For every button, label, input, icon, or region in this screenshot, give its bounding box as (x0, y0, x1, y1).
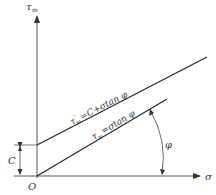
angle-arc (150, 110, 163, 174)
shear-strength-diagram: τ m σ O C φ τ ″ m =C+σtan φ τ ′ m =σtan … (0, 0, 216, 195)
origin-label: O (28, 181, 36, 192)
y-axis-sub: m (32, 6, 38, 13)
svg-text:=σtan φ: =σtan φ (99, 108, 137, 136)
angle-label: φ (165, 139, 172, 150)
x-axis-label: σ (205, 171, 213, 182)
intercept-label: C (8, 155, 16, 166)
